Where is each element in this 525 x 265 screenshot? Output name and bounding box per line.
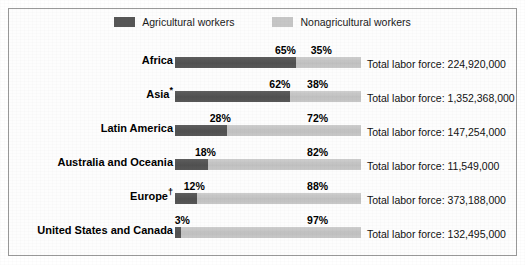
nonagricultural-percent-label: 38% bbox=[307, 79, 328, 90]
row-category-text: Latin America bbox=[101, 122, 173, 134]
total-labor-force-label: Total labor force: 132,495,000 bbox=[367, 229, 506, 240]
agricultural-percent-label: 62% bbox=[269, 79, 290, 90]
nonagricultural-percent-label: 35% bbox=[311, 45, 332, 56]
chart-row: Latin America28%72%Total labor force: 14… bbox=[9, 107, 516, 141]
legend-item-label: Agricultural workers bbox=[142, 17, 234, 28]
row-category-label: Australia and Oceania bbox=[57, 157, 173, 168]
bar-segment-nonagricultural bbox=[181, 227, 361, 238]
bar-segment-agricultural bbox=[175, 57, 296, 68]
chart-frame: Agricultural workersNonagricultural work… bbox=[8, 8, 517, 256]
row-category-text: Australia and Oceania bbox=[57, 156, 173, 168]
bar-segment-nonagricultural bbox=[208, 159, 361, 170]
stacked-bar bbox=[175, 227, 361, 238]
bar-segment-nonagricultural bbox=[296, 57, 361, 68]
row-category-text: United States and Canada bbox=[37, 224, 173, 236]
legend-item-label: Nonagricultural workers bbox=[300, 17, 410, 28]
row-category-text: Asia bbox=[146, 88, 169, 100]
bar-segment-agricultural bbox=[175, 193, 197, 204]
row-category-label: Africa bbox=[142, 55, 173, 66]
chart-row: Europe†12%88%Total labor force: 373,188,… bbox=[9, 175, 516, 209]
row-percent-labels: 3%97% bbox=[175, 212, 361, 225]
row-percent-labels: 62%38% bbox=[175, 76, 361, 89]
row-percent-labels: 28%72% bbox=[175, 110, 361, 123]
nonagricultural-percent-label: 72% bbox=[307, 113, 328, 124]
total-labor-force-label: Total labor force: 224,920,000 bbox=[367, 59, 506, 70]
row-percent-labels: 12%88% bbox=[175, 178, 361, 191]
row-category-label: Europe† bbox=[130, 191, 173, 202]
agricultural-percent-label: 12% bbox=[184, 181, 205, 192]
chart-row: United States and Canada3%97%Total labor… bbox=[9, 209, 516, 243]
row-category-label: United States and Canada bbox=[37, 225, 173, 236]
stacked-bar bbox=[175, 193, 361, 204]
row-percent-labels: 18%82% bbox=[175, 144, 361, 157]
legend-item: Nonagricultural workers bbox=[272, 17, 410, 28]
row-category-footnote-mark: † bbox=[168, 187, 173, 197]
agricultural-percent-label: 28% bbox=[210, 113, 231, 124]
nonagricultural-percent-label: 97% bbox=[307, 215, 328, 226]
bar-segment-agricultural bbox=[175, 125, 227, 136]
stacked-bar bbox=[175, 159, 361, 170]
legend-item: Agricultural workers bbox=[114, 17, 234, 28]
chart-legend: Agricultural workersNonagricultural work… bbox=[9, 17, 516, 28]
total-labor-force-label: Total labor force: 11,549,000 bbox=[367, 161, 499, 172]
row-category-label: Asia* bbox=[146, 89, 173, 100]
row-category-label: Latin America bbox=[101, 123, 173, 134]
bar-segment-nonagricultural bbox=[197, 193, 361, 204]
chart-row: Asia*62%38%Total labor force: 1,352,368,… bbox=[9, 73, 516, 107]
row-category-text: Europe bbox=[130, 190, 168, 202]
bar-segment-nonagricultural bbox=[290, 91, 361, 102]
row-category-text: Africa bbox=[142, 54, 173, 66]
row-category-footnote-mark: * bbox=[169, 85, 173, 95]
stacked-bar bbox=[175, 125, 361, 136]
chart-row: Africa65%35%Total labor force: 224,920,0… bbox=[9, 39, 516, 73]
nonagricultural-percent-label: 82% bbox=[307, 147, 328, 158]
nonagricultural-percent-label: 88% bbox=[307, 181, 328, 192]
row-percent-labels: 65%35% bbox=[175, 42, 361, 55]
legend-swatch-light bbox=[272, 17, 293, 27]
chart-row: Australia and Oceania18%82%Total labor f… bbox=[9, 141, 516, 175]
bar-segment-agricultural bbox=[175, 159, 208, 170]
total-labor-force-label: Total labor force: 373,188,000 bbox=[367, 195, 506, 206]
agricultural-percent-label: 3% bbox=[175, 215, 190, 226]
bar-segment-nonagricultural bbox=[227, 125, 361, 136]
agricultural-percent-label: 65% bbox=[275, 45, 296, 56]
stacked-bar bbox=[175, 57, 361, 68]
stacked-bar bbox=[175, 91, 361, 102]
agricultural-percent-label: 18% bbox=[195, 147, 216, 158]
total-labor-force-label: Total labor force: 147,254,000 bbox=[367, 127, 506, 138]
legend-swatch-dark bbox=[114, 17, 135, 27]
total-labor-force-label: Total labor force: 1,352,368,000 bbox=[367, 93, 515, 104]
bar-segment-agricultural bbox=[175, 91, 290, 102]
chart-rows: Africa65%35%Total labor force: 224,920,0… bbox=[9, 39, 516, 243]
